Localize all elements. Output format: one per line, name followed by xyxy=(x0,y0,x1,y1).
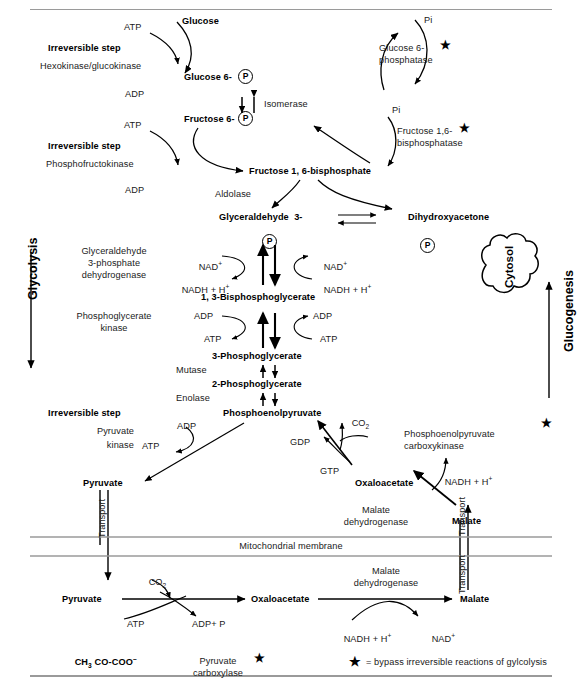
enzyme-malate-dh-cytosol-line2: dehydrogenase xyxy=(330,517,422,528)
nadh-mito-text: NADH + H xyxy=(344,634,388,644)
enzyme-malate-dh-mito-line2: dehydrogenase xyxy=(340,578,432,589)
enzyme-glucose-6-phosphatase-line2: phosphatase xyxy=(379,55,433,66)
nadh-mito-charge: + xyxy=(388,632,392,639)
co2-pepck-text: CO xyxy=(352,418,366,428)
cofactor-nadh-right: NADH + H+ xyxy=(313,274,372,307)
glycolysis-direction-label: Glycolysis xyxy=(26,237,40,300)
structure-rest: CO-COO xyxy=(92,657,133,667)
enzyme-gapdh-line1: Glyceraldehyde xyxy=(62,246,166,257)
metabolite-glucose: Glucose xyxy=(182,16,219,27)
nad-mito-text: NAD xyxy=(432,634,452,644)
enzyme-glucose-6-phosphatase-line1: Glucose 6- xyxy=(379,43,424,54)
nadh-left-charge: + xyxy=(226,283,230,290)
metabolite-pi-2: Pi xyxy=(392,105,400,116)
cofactor-gdp: GDP xyxy=(290,437,310,448)
phosphate-circle-gap: P xyxy=(262,234,277,249)
cofactor-adp-p-pyruvate-carboxylase: ADP+ P xyxy=(192,619,226,630)
enzyme-gapdh-line3: dehydrogenase xyxy=(62,270,166,281)
structure-ch: CH xyxy=(75,657,88,667)
cofactor-nad-mito: NAD+ xyxy=(421,623,455,656)
cofactor-gtp: GTP xyxy=(320,466,339,477)
gluconeogenesis-direction-label: Glucogenesis xyxy=(562,270,576,352)
cofactor-atp-pyruvate-carboxylase: ATP xyxy=(127,619,145,630)
bypass-star-pyruvate-carboxylase: ★ xyxy=(254,653,265,663)
enzyme-pepck-line1: Phosphoenolpyruvate xyxy=(404,429,495,440)
co2-pc-sub: 2 xyxy=(163,582,167,589)
metabolite-fructose-1-6-bisphosphate: Fructose 1, 6-bisphosphate xyxy=(249,166,371,177)
cofactor-co2-pyruvate-carboxylase: CO2 xyxy=(138,566,166,599)
metabolite-dihydroxyacetone-phosphate: Dihydroxyacetone xyxy=(408,212,489,223)
enzyme-gapdh-line2: 3-phosphate xyxy=(62,258,166,269)
structure-charge: – xyxy=(133,655,137,662)
metabolite-phosphoenolpyruvate: Phosphoenolpyruvate xyxy=(223,408,321,419)
enzyme-pyruvate-carboxylase-line1: Pyruvate xyxy=(186,656,250,667)
metabolite-fructose-6-phosphate: Fructose 6- xyxy=(184,114,235,125)
pyruvate-chemical-structure: CH3 CO-COO– xyxy=(64,646,137,679)
enzyme-pepck-line2: carboxykinase xyxy=(404,441,464,452)
nad-right-charge: + xyxy=(343,260,347,267)
metabolite-adp-1: ADP xyxy=(125,89,144,100)
enzyme-fructose-bisphosphatase-line1: Fructose 1,6- xyxy=(397,126,452,137)
metabolite-adp-2: ADP xyxy=(125,185,144,196)
legend-star-icon: ★ xyxy=(349,657,361,667)
cofactor-atp-pgk-left: ATP xyxy=(204,334,222,345)
figure-canvas: ATP Glucose Irreversible step Hexokinase… xyxy=(0,0,582,689)
enzyme-irreversible-step-3: Irreversible step xyxy=(48,408,121,419)
cofactor-adp-pgk-right: ADP xyxy=(313,311,332,322)
bypass-star-g6pase: ★ xyxy=(440,40,451,50)
metabolite-1-3-bisphosphoglycerate: 1, 3-Bisphosphoglycerate xyxy=(201,292,315,303)
enzyme-pyruvate-carboxylase-line2: carboxylase xyxy=(186,668,250,679)
enzyme-fructose-bisphosphatase-line2: bisphosphatase xyxy=(397,138,463,149)
nadh-malate-cyto-text: NADH + H xyxy=(445,477,489,487)
enzyme-phosphofructokinase: Phosphofructokinase xyxy=(46,159,134,170)
metabolite-glucose-6-phosphate: Glucose 6- xyxy=(184,72,232,83)
enzyme-aldolase: Aldolase xyxy=(215,189,251,200)
metabolite-3-phosphoglycerate: 3-Phosphoglycerate xyxy=(212,351,302,362)
metabolite-atp-1: ATP xyxy=(124,22,142,33)
transport-label-right-upper: Transport xyxy=(457,497,467,536)
metabolite-glyceraldehyde-3-phosphate: Glyceraldehyde 3- xyxy=(219,212,303,223)
enzyme-pyruvate-kinase-line2: kinase xyxy=(60,440,134,451)
co2-pc-text: CO xyxy=(149,577,163,587)
metabolite-atp-2: ATP xyxy=(124,120,142,131)
enzyme-mutase: Mutase xyxy=(176,365,207,376)
metabolite-oxaloacetate-cytosol: Oxaloacetate xyxy=(355,478,413,489)
nadh-right-text: NADH + H xyxy=(324,285,368,295)
metabolite-pyruvate-cytosol: Pyruvate xyxy=(83,478,123,489)
phosphate-circle-f6p: P xyxy=(238,111,253,126)
cofactor-nadh-mito: NADH + H+ xyxy=(333,623,392,656)
metabolite-2-phosphoglycerate: 2-Phosphoglycerate xyxy=(212,379,302,390)
enzyme-malate-dh-cytosol-line1: Malate xyxy=(330,505,422,516)
cofactor-atp-pgk-right: ATP xyxy=(320,334,338,345)
nad-left-charge: + xyxy=(218,260,222,267)
enzyme-enolase: Enolase xyxy=(176,393,210,404)
cytosol-label: Cytosol xyxy=(503,246,515,288)
phosphate-circle-dhap: P xyxy=(420,238,435,253)
mitochondrial-membrane-label: Mitochondrial membrane xyxy=(206,541,376,552)
legend-text: = bypass irreversible reactions of gylco… xyxy=(366,657,547,668)
phosphate-circle-g6p: P xyxy=(238,69,253,84)
enzyme-pgk-line1: Phosphoglycerate xyxy=(62,311,166,322)
bypass-star-fbpase: ★ xyxy=(459,123,470,133)
bypass-star-pepck: ★ xyxy=(541,418,552,428)
enzyme-irreversible-step-2: Irreversible step xyxy=(48,141,121,152)
nad-mito-charge: + xyxy=(451,632,455,639)
metabolite-pi-1: Pi xyxy=(424,15,432,26)
top-rule xyxy=(30,9,552,10)
nadh-malate-cyto-charge: + xyxy=(489,475,493,482)
enzyme-isomerase: Isomerase xyxy=(264,99,308,110)
metabolite-pyruvate-mito: Pyruvate xyxy=(62,594,102,605)
enzyme-pgk-line2: kinase xyxy=(62,323,166,334)
nad-right-text: NAD xyxy=(324,262,344,272)
nadh-right-charge: + xyxy=(368,283,372,290)
enzyme-malate-dh-mito-line1: Malate xyxy=(340,566,432,577)
cofactor-adp-pk: ADP xyxy=(177,421,196,432)
nad-left-text: NAD xyxy=(199,262,219,272)
enzyme-irreversible-step-1: Irreversible step xyxy=(48,43,121,54)
cofactor-atp-pk: ATP xyxy=(142,441,160,452)
transport-label-left: Transport xyxy=(97,499,107,538)
metabolite-malate-mito: Malate xyxy=(460,594,489,605)
cofactor-nadh-malate-cytosol: NADH + H+ xyxy=(434,466,493,499)
metabolite-oxaloacetate-mito: Oxaloacetate xyxy=(251,594,309,605)
co2-pepck-sub: 2 xyxy=(366,423,370,430)
